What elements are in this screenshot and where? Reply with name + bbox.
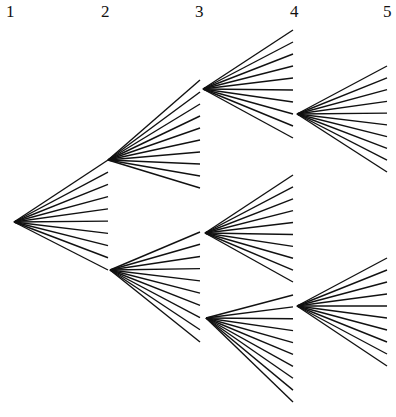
branch-line	[110, 244, 200, 270]
branch-line	[110, 232, 200, 270]
tree-node-n1	[14, 160, 108, 270]
branch-line	[14, 160, 108, 222]
branch-line	[203, 89, 293, 102]
branch-line	[297, 114, 387, 137]
branch-line	[206, 307, 293, 318]
branch-line	[297, 258, 387, 306]
tree-node-n4a	[297, 66, 387, 172]
branch-line	[14, 197, 108, 222]
tree-node-n2b	[110, 232, 200, 342]
branch-line	[206, 318, 293, 354]
branch-line	[297, 78, 387, 114]
tree-diagram	[0, 0, 396, 417]
branch-line	[14, 221, 108, 222]
branch-line	[206, 318, 293, 319]
branch-line	[297, 90, 387, 114]
tree-node-n3c	[206, 295, 293, 402]
branch-line	[110, 256, 200, 270]
tree-node-n2a	[108, 80, 200, 188]
branch-line	[14, 222, 108, 246]
tree-node-n3b	[205, 175, 293, 282]
branch-line	[297, 66, 387, 114]
branch-line	[14, 172, 108, 222]
branch-line	[205, 233, 293, 234]
branch-line	[203, 89, 293, 114]
branch-line	[203, 66, 293, 89]
branch-line	[203, 89, 293, 90]
branch-line	[297, 306, 387, 330]
branch-line	[205, 211, 293, 233]
branch-line	[206, 318, 293, 378]
branch-line	[203, 89, 293, 138]
branch-line	[205, 187, 293, 233]
branch-line	[14, 222, 108, 270]
branch-line	[203, 42, 293, 89]
branch-line	[110, 270, 200, 318]
tree-node-n4b	[297, 258, 387, 366]
branch-line	[297, 113, 387, 114]
branch-line	[297, 101, 387, 114]
branch-line	[110, 270, 200, 342]
branch-line	[14, 209, 108, 222]
branch-line	[108, 80, 200, 160]
branch-line	[108, 104, 200, 160]
branch-line	[297, 306, 387, 354]
tree-node-n3a	[203, 30, 293, 138]
branch-line	[205, 233, 293, 258]
branch-line	[297, 114, 387, 160]
branch-line	[206, 295, 293, 318]
branch-line	[14, 184, 108, 222]
branch-line	[297, 282, 387, 306]
branch-line	[110, 269, 200, 270]
branch-line	[205, 233, 293, 270]
branch-line	[203, 89, 293, 126]
